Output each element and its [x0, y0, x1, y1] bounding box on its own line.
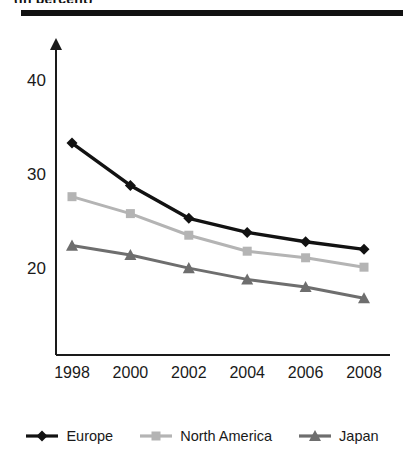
x-tick-label: 2006 [280, 364, 332, 382]
y-axis-arrow-icon [50, 38, 62, 50]
x-tick-label: 2004 [221, 364, 273, 382]
chart-axes [50, 38, 390, 355]
series-line [72, 246, 364, 299]
square-marker [301, 253, 310, 262]
diamond-marker [359, 244, 370, 255]
series-line [72, 197, 364, 268]
chart-svg [0, 0, 404, 400]
x-tick-label: 2002 [163, 364, 215, 382]
diamond-marker [37, 431, 48, 442]
square-marker [68, 192, 77, 201]
square-marker [360, 263, 369, 272]
x-tick-label: 1998 [46, 364, 98, 382]
diamond-legend-icon [25, 429, 59, 443]
line-chart-plot: 203040 199820002002200420062008 [0, 0, 404, 400]
series-line [72, 143, 364, 249]
y-tick-label: 30 [12, 165, 46, 185]
square-marker [152, 432, 161, 441]
legend-label: Europe [66, 428, 113, 444]
y-tick-label: 40 [12, 71, 46, 91]
square-marker [243, 247, 252, 256]
x-tick-label: 2000 [104, 364, 156, 382]
legend-item-europe[interactable]: Europe [25, 428, 113, 444]
series-japan [66, 240, 370, 304]
series-europe [67, 138, 370, 255]
diamond-marker [300, 236, 311, 247]
chart-series-layer [66, 138, 370, 304]
triangle-legend-icon [298, 429, 332, 443]
legend-label: Japan [339, 428, 379, 444]
square-marker [126, 209, 135, 218]
chart-page: (in percent) 203040 19982000200220042006… [0, 0, 404, 456]
square-legend-icon [139, 429, 173, 443]
diamond-marker [242, 227, 253, 238]
legend-item-japan[interactable]: Japan [298, 428, 379, 444]
y-tick-label: 20 [12, 259, 46, 279]
legend-label: North America [180, 428, 272, 444]
x-tick-label: 2008 [338, 364, 390, 382]
chart-legend: EuropeNorth AmericaJapan [0, 424, 404, 448]
series-north-america [68, 192, 369, 272]
square-marker [184, 231, 193, 240]
legend-item-north-america[interactable]: North America [139, 428, 272, 444]
